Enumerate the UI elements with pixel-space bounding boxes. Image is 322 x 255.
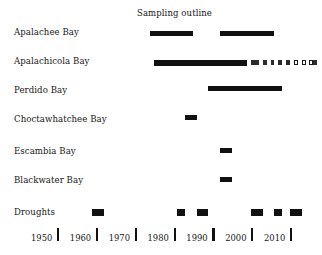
axis-tick-label: 2010 bbox=[264, 233, 285, 243]
axis-tick-label: 1990 bbox=[186, 233, 207, 243]
interval-bar bbox=[302, 60, 306, 65]
interval-bar bbox=[294, 60, 298, 65]
interval-bar bbox=[251, 60, 259, 65]
row-label-perdido-bay: Perdido Bay bbox=[14, 85, 67, 95]
interval-bar bbox=[220, 31, 274, 36]
axis-tick bbox=[290, 228, 292, 241]
interval-bar bbox=[208, 86, 282, 91]
axis-tick bbox=[251, 228, 253, 241]
axis-tick bbox=[212, 228, 214, 241]
interval-bar bbox=[286, 60, 290, 65]
interval-bar bbox=[154, 60, 247, 66]
axis-tick-label: 1960 bbox=[70, 233, 91, 243]
interval-bar bbox=[92, 209, 104, 216]
axis-tick-label: 1980 bbox=[148, 233, 169, 243]
interval-bar bbox=[278, 60, 282, 65]
axis-tick bbox=[57, 228, 59, 241]
chart-title: Sampling outline bbox=[137, 8, 212, 18]
interval-bar bbox=[271, 60, 275, 65]
row-label-escambia-bay: Escambia Bay bbox=[14, 146, 76, 156]
interval-bar bbox=[185, 115, 197, 120]
row-label-blackwater-bay: Blackwater Bay bbox=[14, 175, 83, 185]
axis-tick bbox=[174, 228, 176, 241]
interval-bar bbox=[251, 209, 263, 216]
row-label-apalachee-bay: Apalachee Bay bbox=[14, 27, 79, 37]
axis-tick-label: 2000 bbox=[225, 233, 246, 243]
row-label-choctawhatchee-bay: Choctawhatchee Bay bbox=[14, 114, 107, 124]
interval-bar bbox=[150, 31, 193, 36]
interval-bar bbox=[313, 60, 317, 65]
row-label-apalachicola-bay: Apalachicola Bay bbox=[14, 56, 89, 66]
interval-bar bbox=[220, 177, 232, 182]
sampling-outline-figure: Sampling outline Apalachee BayApalachico… bbox=[0, 0, 322, 255]
axis-tick-label: 1950 bbox=[31, 233, 52, 243]
interval-bar bbox=[197, 209, 209, 216]
interval-bar bbox=[263, 60, 267, 65]
interval-bar bbox=[177, 209, 185, 216]
axis-tick-label: 1970 bbox=[109, 233, 130, 243]
row-label-droughts: Droughts bbox=[14, 207, 55, 217]
axis-tick bbox=[96, 228, 98, 241]
interval-bar bbox=[274, 209, 282, 216]
axis-tick bbox=[135, 228, 137, 241]
interval-bar bbox=[220, 148, 232, 153]
interval-bar bbox=[290, 209, 302, 216]
